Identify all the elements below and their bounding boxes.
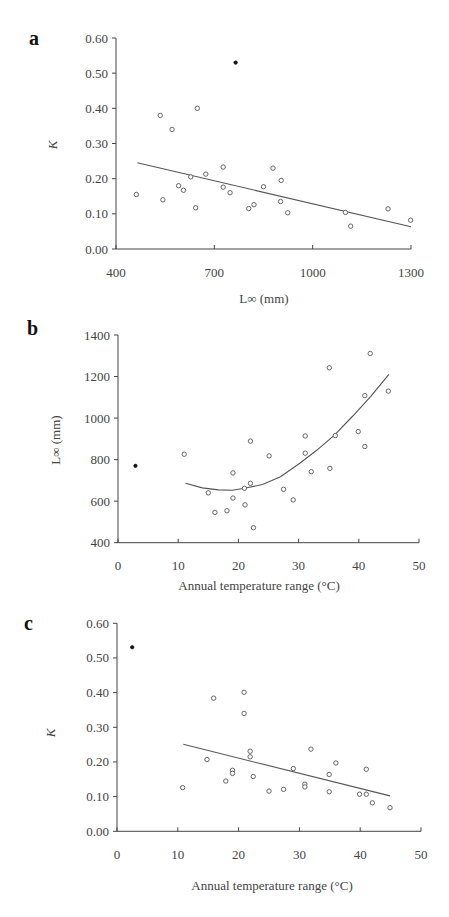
data-point	[221, 165, 225, 169]
data-point	[251, 774, 255, 778]
data-point	[180, 785, 184, 789]
y-tick-label: 0.50	[85, 66, 108, 81]
data-point	[247, 206, 251, 210]
y-tick-label: 0.10	[86, 789, 109, 804]
data-point	[211, 696, 215, 700]
data-point	[230, 771, 234, 775]
data-point	[195, 106, 199, 110]
data-point	[134, 192, 138, 196]
data-point	[333, 433, 337, 437]
x-axis-title: Annual temperature range (°C)	[178, 578, 340, 593]
data-point	[181, 188, 185, 192]
data-point	[267, 789, 271, 793]
data-point	[267, 454, 271, 458]
data-point	[309, 469, 313, 473]
data-point	[279, 178, 283, 182]
data-point	[248, 749, 252, 753]
x-axis-title: Annual temperature range (°C)	[191, 878, 353, 893]
data-point	[370, 801, 374, 805]
data-point	[242, 690, 246, 694]
data-point	[243, 503, 247, 507]
y-tick-label: 1400	[84, 328, 110, 343]
data-point	[224, 779, 228, 783]
x-tick-label: 10	[172, 558, 185, 573]
data-point	[303, 785, 307, 789]
panel-label: a	[29, 27, 39, 49]
y-tick-label: 600	[91, 494, 111, 509]
y-tick-label: 0.20	[85, 171, 108, 186]
data-point	[248, 755, 252, 759]
data-point	[261, 185, 265, 189]
outlier-point	[234, 61, 238, 65]
y-tick-label: 0.00	[86, 824, 109, 839]
x-tick-label: 40	[352, 558, 365, 573]
y-tick-label: 0.60	[86, 616, 109, 631]
data-point	[213, 510, 217, 514]
fit-line	[137, 163, 411, 227]
data-point	[228, 191, 232, 195]
data-point	[363, 393, 367, 397]
y-tick-label: 0.40	[86, 685, 109, 700]
y-tick-label: 0.40	[85, 101, 108, 116]
panel-label: b	[27, 317, 38, 339]
data-point	[356, 429, 360, 433]
data-point	[328, 466, 332, 470]
data-point	[248, 481, 252, 485]
data-point	[206, 491, 210, 495]
data-point	[242, 711, 246, 715]
x-tick-label: 40	[354, 847, 367, 862]
x-tick-label: 0	[114, 847, 121, 862]
y-tick-label: 0.00	[85, 242, 108, 257]
data-point	[364, 767, 368, 771]
x-tick-label: 10	[171, 847, 184, 862]
panel-label: c	[24, 612, 33, 634]
data-point	[225, 509, 229, 513]
data-point	[248, 439, 252, 443]
panel-c: c0.000.100.200.300.400.500.6001020304050…	[24, 612, 428, 893]
data-point	[281, 787, 285, 791]
y-axis-title: L∞ (mm)	[48, 415, 63, 464]
data-point	[408, 218, 412, 222]
data-point	[334, 761, 338, 765]
data-point	[231, 496, 235, 500]
data-point	[309, 747, 313, 751]
data-point	[170, 127, 174, 131]
data-point	[242, 486, 246, 490]
x-tick-label: 50	[415, 847, 428, 862]
data-point	[386, 207, 390, 211]
data-point	[158, 113, 162, 117]
data-point	[189, 175, 193, 179]
outlier-point	[130, 645, 134, 649]
data-point	[291, 498, 295, 502]
y-tick-label: 800	[91, 452, 111, 467]
x-tick-label: 20	[232, 847, 245, 862]
data-point	[388, 806, 392, 810]
y-tick-label: 0.30	[86, 720, 109, 735]
data-point	[221, 185, 225, 189]
data-point	[281, 487, 285, 491]
data-point	[364, 792, 368, 796]
y-axis-title: K	[43, 727, 58, 738]
data-point	[303, 434, 307, 438]
data-point	[386, 389, 390, 393]
x-tick-label: 1300	[398, 265, 424, 280]
panel-a: a0.000.100.200.300.400.500.6040070010001…	[29, 27, 424, 306]
data-point	[357, 792, 361, 796]
x-tick-label: 400	[106, 265, 126, 280]
data-point	[343, 210, 347, 214]
y-tick-label: 0.30	[85, 136, 108, 151]
data-point	[271, 166, 275, 170]
data-point	[363, 444, 367, 448]
data-point	[193, 206, 197, 210]
x-tick-label: 30	[292, 558, 305, 573]
x-tick-label: 1000	[300, 265, 326, 280]
x-axis-title: L∞ (mm)	[239, 291, 288, 306]
x-tick-label: 50	[413, 558, 426, 573]
x-tick-label: 20	[232, 558, 245, 573]
data-point	[327, 790, 331, 794]
data-point	[182, 452, 186, 456]
data-point	[251, 526, 255, 530]
fit-line	[183, 744, 390, 796]
y-tick-label: 0.10	[85, 206, 108, 221]
y-tick-label: 400	[91, 535, 111, 550]
